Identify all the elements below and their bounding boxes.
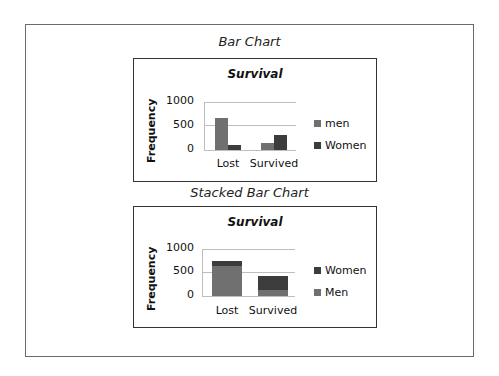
legend-men: Men bbox=[314, 286, 348, 299]
x-label-lost: Lost bbox=[212, 157, 244, 170]
bar-men-lost bbox=[212, 266, 242, 296]
y-axis-label: Frequency bbox=[145, 247, 158, 311]
bar-men-survived bbox=[258, 290, 288, 296]
legend-label: men bbox=[325, 117, 349, 130]
gridline bbox=[204, 102, 296, 103]
x-label-survived: Survived bbox=[249, 157, 299, 170]
y-tick-1000: 1000 bbox=[154, 94, 194, 107]
bar-women-survived bbox=[258, 276, 288, 290]
gridline bbox=[202, 249, 295, 250]
bar-chart: Survival Frequency 1000 500 0 Lost Survi… bbox=[133, 58, 377, 182]
legend-women: Women bbox=[314, 264, 366, 277]
legend-label: Women bbox=[325, 264, 366, 277]
x-label-survived: Survived bbox=[248, 304, 298, 317]
bar-chart-caption: Bar Chart bbox=[0, 34, 499, 49]
legend-swatch-men bbox=[314, 289, 321, 296]
legend-label: Men bbox=[325, 286, 348, 299]
x-axis-line bbox=[202, 296, 295, 297]
legend-swatch-women bbox=[314, 142, 321, 149]
bar-women-lost bbox=[228, 145, 241, 150]
legend-swatch-men bbox=[314, 120, 321, 127]
y-axis-line bbox=[204, 102, 205, 150]
bar-women-survived bbox=[274, 135, 287, 150]
stacked-bar-chart-caption: Stacked Bar Chart bbox=[0, 185, 499, 200]
chart-title: Survival bbox=[134, 215, 376, 229]
bar-men-lost bbox=[215, 118, 228, 150]
y-axis-line bbox=[202, 249, 203, 296]
legend-swatch-women bbox=[314, 267, 321, 274]
y-tick-500: 500 bbox=[154, 264, 194, 277]
legend-label: Women bbox=[325, 139, 366, 152]
y-tick-1000: 1000 bbox=[154, 241, 194, 254]
legend-men: men bbox=[314, 117, 349, 130]
y-tick-0: 0 bbox=[154, 288, 194, 301]
x-axis-line bbox=[204, 150, 296, 151]
x-label-lost: Lost bbox=[211, 304, 243, 317]
legend-women: Women bbox=[314, 139, 366, 152]
y-tick-500: 500 bbox=[154, 118, 194, 131]
bar-men-survived bbox=[261, 143, 274, 150]
stacked-bar-chart: Survival Frequency 1000 500 0 Lost Survi… bbox=[133, 206, 377, 328]
chart-title: Survival bbox=[134, 67, 376, 81]
y-tick-0: 0 bbox=[154, 142, 194, 155]
